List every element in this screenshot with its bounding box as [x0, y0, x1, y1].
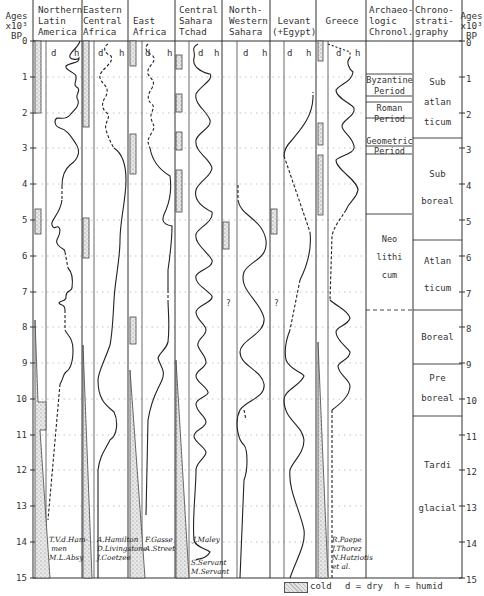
dry-label: d	[145, 48, 150, 58]
period-neolithicum: Neo lithi cum	[366, 235, 413, 280]
right-tick-13: 13	[466, 504, 477, 513]
period-roman: Roman Period	[366, 103, 413, 125]
curve-east-africa	[146, 44, 154, 148]
stage-subboreal: Sub boreal	[413, 170, 462, 206]
right-tick-7: 7	[466, 290, 471, 299]
legend-cold: cold	[310, 581, 332, 591]
left-tick-1: 1	[22, 73, 27, 82]
dry-label: d	[336, 48, 341, 58]
humid-label: h	[355, 48, 360, 58]
authors-central-sahara: S.Servant M.Servant	[191, 558, 229, 576]
humid-label: h	[262, 48, 267, 58]
right-tick-11: 11	[466, 433, 477, 442]
left-tick-15: 15	[16, 574, 27, 583]
humid-label: h	[214, 48, 219, 58]
right-tick-10: 10	[466, 397, 477, 406]
left-tick-7: 7	[22, 288, 27, 297]
left-tick-4: 4	[22, 180, 27, 189]
dry-label: d	[198, 48, 203, 58]
left-tick-8: 8	[22, 323, 27, 332]
right-tick-2: 2	[466, 111, 471, 120]
right-tick-14: 14	[466, 540, 477, 549]
left-tick-12: 12	[16, 466, 27, 475]
legend-humid: h = humid	[394, 581, 443, 591]
curve-northern-latin-america-mid	[52, 200, 65, 252]
authors-greece: R.Paepe J.Thorez N.Hatziotis et al.	[332, 535, 373, 571]
dry-label: d	[51, 48, 56, 58]
right-tick-4: 4	[466, 182, 471, 191]
period-geometric: Geometric Period	[366, 136, 413, 156]
curve-central-sahara	[193, 44, 212, 560]
left-tick-5: 5	[22, 216, 27, 225]
stage-boreal: Boreal	[413, 332, 462, 343]
uncertain-marker: ?	[274, 299, 279, 308]
authors-eastern-central-africa: A.Hamilton D.Livingstone J.Coetzee	[97, 535, 147, 562]
left-tick-3: 3	[22, 144, 27, 153]
left-tick-13: 13	[16, 502, 27, 511]
left-tick-11: 11	[16, 431, 27, 440]
stage-preboreal: Pre boreal	[413, 373, 462, 403]
left-tick-2: 2	[22, 109, 27, 118]
left-tick-14: 14	[16, 538, 27, 547]
climate-curves	[48, 41, 358, 578]
right-tick-6: 6	[466, 254, 471, 263]
left-tick-9: 9	[22, 359, 27, 368]
dry-label: d	[98, 48, 103, 58]
curve-eastern-central-africa	[100, 44, 114, 148]
authors-northern-latin-america: T.V.d.Ham- men M.L.Absy	[49, 535, 88, 562]
curve-levant	[284, 98, 313, 156]
stage-tardiglacial: Tardi glacial	[413, 462, 462, 512]
dry-label: d	[243, 48, 248, 58]
curve-northern-latin-america-low	[59, 268, 72, 310]
cold-legend-swatch	[284, 582, 308, 593]
curve-northern-latin-america	[55, 41, 80, 186]
left-tick-10: 10	[16, 395, 27, 404]
right-tick-0: 0	[466, 39, 471, 48]
stage-subatlanticum: Sub atlan ticum	[413, 77, 462, 127]
humid-label: h	[119, 48, 124, 58]
humid-label: h	[74, 48, 79, 58]
period-byzantine: Byzantine Period	[366, 75, 413, 97]
legend-dry: d = dry	[345, 581, 383, 591]
stage-atlanticum: Atlan ticum	[413, 257, 462, 293]
uncertain-marker: ?	[226, 299, 231, 308]
right-tick-12: 12	[466, 468, 477, 477]
left-tick-0: 0	[22, 37, 27, 46]
right-tick-9: 9	[466, 361, 471, 370]
right-tick-8: 8	[466, 325, 471, 334]
right-tick-1: 1	[466, 75, 471, 84]
left-tick-6: 6	[22, 252, 27, 261]
right-tick-15: 15	[466, 576, 477, 585]
dry-label: d	[287, 48, 292, 58]
authors-central-sahara-top: J.Maley	[193, 535, 220, 544]
authors-east-africa: F.Gasse A.Street	[145, 535, 175, 553]
humid-label: h	[306, 48, 311, 58]
humid-label: h	[167, 48, 172, 58]
right-tick-3: 3	[466, 146, 471, 155]
right-tick-5: 5	[466, 218, 471, 227]
